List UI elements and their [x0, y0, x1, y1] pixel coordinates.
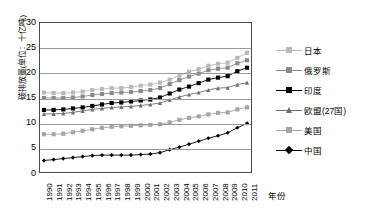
legend-label: 欧盟(27国): [302, 104, 346, 116]
gridline: [40, 48, 251, 49]
x-axis-tick: 2010: [241, 183, 249, 201]
legend-item[interactable]: 印度: [276, 80, 368, 100]
legend-marker-icon: [276, 85, 302, 95]
legend-marker-icon: [276, 105, 302, 115]
legend-marker-icon: [276, 45, 302, 55]
y-axis-tick: 5: [31, 143, 36, 152]
legend-marker-icon: [276, 145, 302, 155]
legend: 日本俄罗斯印度欧盟(27国)美国中国: [276, 40, 368, 160]
legend-item[interactable]: 中国: [276, 140, 368, 160]
legend-item[interactable]: 俄罗斯: [276, 60, 368, 80]
x-axis-tick: 1997: [114, 183, 122, 201]
legend-label: 美国: [302, 124, 322, 136]
gridline: [40, 73, 251, 74]
legend-item[interactable]: 日本: [276, 40, 368, 60]
x-axis-tick: 2005: [192, 183, 200, 201]
y-axis-tick: 0: [31, 169, 36, 178]
y-axis-tick: 25: [26, 43, 36, 52]
x-axis-tick: 1996: [105, 183, 113, 201]
legend-label: 日本: [302, 44, 322, 56]
gridline: [40, 99, 251, 100]
x-axis-tick: 2000: [144, 183, 152, 201]
legend-item[interactable]: 美国: [276, 120, 368, 140]
y-axis-tick: 15: [26, 93, 36, 102]
x-axis-tick: 2007: [212, 183, 220, 201]
x-axis-tick: 2008: [222, 183, 230, 201]
legend-marker-icon: [276, 125, 302, 135]
x-axis-tick: 1993: [75, 183, 83, 201]
x-axis-tick: 1992: [66, 183, 74, 201]
x-axis-tick: 2011: [251, 184, 259, 201]
gridline: [40, 124, 251, 125]
gridline: [40, 149, 251, 150]
x-axis-tick-labels: 1990199119921993199419951996199719981999…: [39, 175, 252, 219]
legend-item[interactable]: 欧盟(27国): [276, 100, 368, 120]
x-axis-tick: 1991: [56, 183, 64, 201]
x-axis-tick: 2002: [163, 183, 171, 201]
chart-figure: 碳排放量(单位：十亿吨) 051015202530 19901991199219…: [0, 0, 368, 220]
x-axis-title: 年份: [268, 189, 286, 201]
y-axis-tick: 30: [26, 18, 36, 27]
x-axis-tick: 2004: [183, 183, 191, 201]
x-axis-tick: 2006: [202, 183, 210, 201]
x-axis-tick: 2001: [153, 183, 161, 201]
legend-label: 俄罗斯: [302, 64, 331, 76]
x-axis-tick: 1994: [85, 183, 93, 201]
x-axis-tick: 1995: [95, 183, 103, 201]
series-5: [42, 121, 249, 162]
legend-label: 中国: [302, 144, 322, 156]
x-axis-tick: 2009: [231, 183, 239, 201]
y-axis-tick: 20: [26, 68, 36, 77]
legend-marker-icon: [276, 65, 302, 75]
x-axis-tick: 1998: [124, 183, 132, 201]
legend-label: 印度: [302, 84, 322, 96]
x-axis-tick: 1999: [134, 183, 142, 201]
y-axis-tick-labels: 051015202530: [14, 0, 36, 220]
plot-area: [39, 22, 252, 173]
x-axis-tick: 2003: [173, 183, 181, 201]
y-axis-tick: 10: [26, 118, 36, 127]
x-axis-tick: 1990: [46, 183, 54, 201]
